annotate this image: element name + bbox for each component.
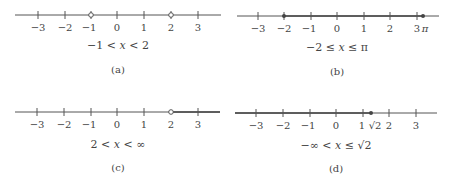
number-line-b: −3 −2 −1 0 1 2 3 π −2 ≤ x ≤ π (b) bbox=[225, 0, 451, 90]
tick-label: 2 bbox=[168, 119, 174, 130]
open-endpoint-neg1 bbox=[89, 13, 94, 18]
tick-label: −2 bbox=[58, 22, 73, 33]
tick-label: 1 bbox=[361, 23, 367, 34]
caption-c: (c) bbox=[111, 162, 125, 173]
open-endpoint-2 bbox=[169, 110, 174, 115]
tick-label: 0 bbox=[114, 22, 120, 33]
tick-label: 1 bbox=[141, 22, 147, 33]
inequality-c: 2 < x < ∞ bbox=[91, 138, 146, 151]
tick-label: 2 bbox=[386, 120, 392, 131]
tick-label: 2 bbox=[387, 23, 393, 34]
number-line-c: −3 −2 −1 0 1 2 3 2 < x < ∞ (c) bbox=[0, 90, 225, 179]
sqrt2-label: √2 bbox=[369, 120, 382, 131]
tick-label: −2 bbox=[277, 23, 292, 34]
tick-label: 3 bbox=[413, 120, 419, 131]
tick-label: 2 bbox=[168, 22, 174, 33]
panel-d: −3 −2 −1 0 1 √2 2 3 −∞ < x ≤ √2 (d) bbox=[225, 90, 451, 179]
tick-label: −1 bbox=[82, 119, 97, 130]
number-line-d: −3 −2 −1 0 1 √2 2 3 −∞ < x ≤ √2 (d) bbox=[225, 90, 451, 179]
closed-endpoint-sqrt2 bbox=[369, 111, 373, 115]
tick-label: 0 bbox=[114, 119, 120, 130]
tick-label: −1 bbox=[301, 120, 316, 131]
tick-label: −1 bbox=[302, 23, 317, 34]
inequality-a: −1 < x < 2 bbox=[87, 39, 149, 52]
caption-a: (a) bbox=[111, 64, 125, 75]
caption-b: (b) bbox=[330, 66, 344, 77]
tick-label: −2 bbox=[57, 119, 72, 130]
tick-label: −3 bbox=[249, 120, 264, 131]
inequality-b: −2 ≤ x ≤ π bbox=[306, 41, 368, 54]
closed-endpoint-pi bbox=[421, 14, 425, 18]
pi-label: π bbox=[421, 23, 429, 34]
inequality-d: −∞ < x ≤ √2 bbox=[300, 139, 371, 152]
tick-label: −3 bbox=[251, 23, 266, 34]
panel-b: −3 −2 −1 0 1 2 3 π −2 ≤ x ≤ π (b) bbox=[225, 0, 451, 90]
caption-d: (d) bbox=[329, 163, 343, 174]
number-line-a: −3 −2 −1 0 1 2 3 −1 < x < 2 (a) bbox=[0, 0, 225, 90]
tick-label: 1 bbox=[359, 120, 365, 131]
tick-label: −3 bbox=[30, 119, 45, 130]
panel-c: −3 −2 −1 0 1 2 3 2 < x < ∞ (c) bbox=[0, 90, 225, 179]
tick-label: 3 bbox=[195, 119, 201, 130]
open-endpoint-2 bbox=[169, 13, 174, 18]
tick-label: −1 bbox=[82, 22, 97, 33]
closed-endpoint-neg2 bbox=[282, 14, 286, 18]
tick-label: 0 bbox=[334, 23, 340, 34]
tick-label: −2 bbox=[276, 120, 291, 131]
tick-label: −3 bbox=[31, 22, 46, 33]
tick-label: 3 bbox=[414, 23, 420, 34]
panel-a: −3 −2 −1 0 1 2 3 −1 < x < 2 (a) bbox=[0, 0, 225, 90]
tick-label: 0 bbox=[333, 120, 339, 131]
tick-label: 3 bbox=[195, 22, 201, 33]
tick-label: 1 bbox=[141, 119, 147, 130]
